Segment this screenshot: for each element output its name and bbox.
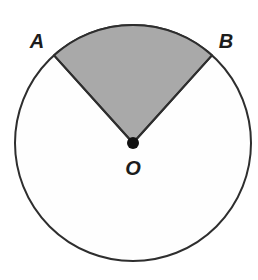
label-center-o: O: [125, 157, 141, 179]
circle-sector-figure: A B O: [0, 0, 258, 280]
label-point-a: A: [29, 30, 44, 52]
center-point-dot: [127, 137, 139, 149]
label-point-b: B: [219, 30, 233, 52]
figure-canvas: A B O: [0, 0, 258, 280]
